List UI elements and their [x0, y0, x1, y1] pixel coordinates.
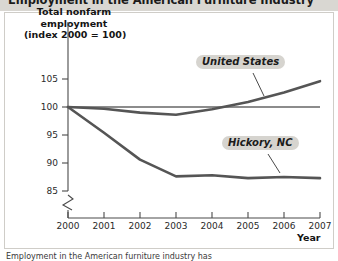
x-tick-label-2005: 2005: [231, 221, 265, 231]
x-tick-label-2004: 2004: [195, 221, 229, 231]
figure-caption: Employment in the American furniture ind…: [6, 252, 332, 261]
x-tick-label-2002: 2002: [123, 221, 157, 231]
x-tick-label-2003: 2003: [159, 221, 193, 231]
x-tick-label-2006: 2006: [267, 221, 301, 231]
y-tick-marks: [62, 79, 68, 191]
leader-line-hickory: [268, 154, 280, 173]
axis-break-icon: [63, 195, 73, 210]
figure-root: Employment in the American Furniture Ind…: [0, 0, 338, 261]
leader-line-united-states: [253, 73, 264, 96]
y-tick-label-105: 105: [28, 74, 58, 84]
y-tick-label-100: 100: [28, 102, 58, 112]
x-tick-label-2001: 2001: [87, 221, 121, 231]
x-axis-title: Year: [297, 232, 321, 243]
series-label-united-states: United States: [196, 55, 285, 69]
x-tick-label-2000: 2000: [51, 221, 85, 231]
series-line-united-states: [68, 81, 320, 115]
x-tick-label-2007: 2007: [303, 221, 337, 231]
y-tick-label-85: 85: [28, 186, 58, 196]
x-tick-marks: [68, 212, 320, 218]
series-label-hickory: Hickory, NC: [222, 136, 299, 150]
y-tick-label-90: 90: [28, 158, 58, 168]
y-tick-label-95: 95: [28, 130, 58, 140]
